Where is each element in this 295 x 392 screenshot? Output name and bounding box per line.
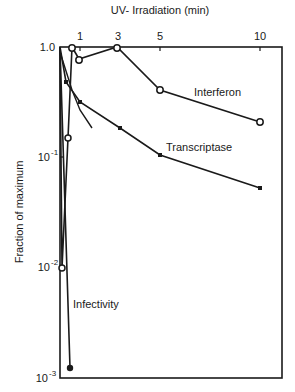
y-tick-exponent: -2 [51,258,59,267]
series-transcriptase-early [60,52,92,128]
label-infectivity: Infectivity [73,298,119,310]
x-tick-label: 1 [77,30,83,42]
plot-frame [60,47,282,378]
x-tick-label: 10 [254,30,266,42]
label-interferon: Interferon [194,86,241,98]
y-axis-title: Fraction of maximum [13,161,25,264]
y-tick-exponent: -3 [49,369,57,378]
x-tick-label: 3 [115,30,121,42]
chart: UV- Irradiation (min) 1 3 5 10 1.0 10 -1… [0,0,295,392]
x-axis-title: UV- Irradiation (min) [111,4,209,16]
y-tick-exponent: -1 [51,148,59,157]
y-tick-label: 10 [38,151,50,163]
series-infectivity [60,47,72,368]
series-transcriptase [60,47,260,188]
y-tick-label: 10 [38,261,50,273]
y-tick-label: 10 [36,372,48,384]
x-tick-label: 5 [157,30,163,42]
y-tick-label: 1.0 [40,41,55,53]
series-interferon [72,47,260,122]
label-transcriptase: Transcriptase [166,141,232,153]
